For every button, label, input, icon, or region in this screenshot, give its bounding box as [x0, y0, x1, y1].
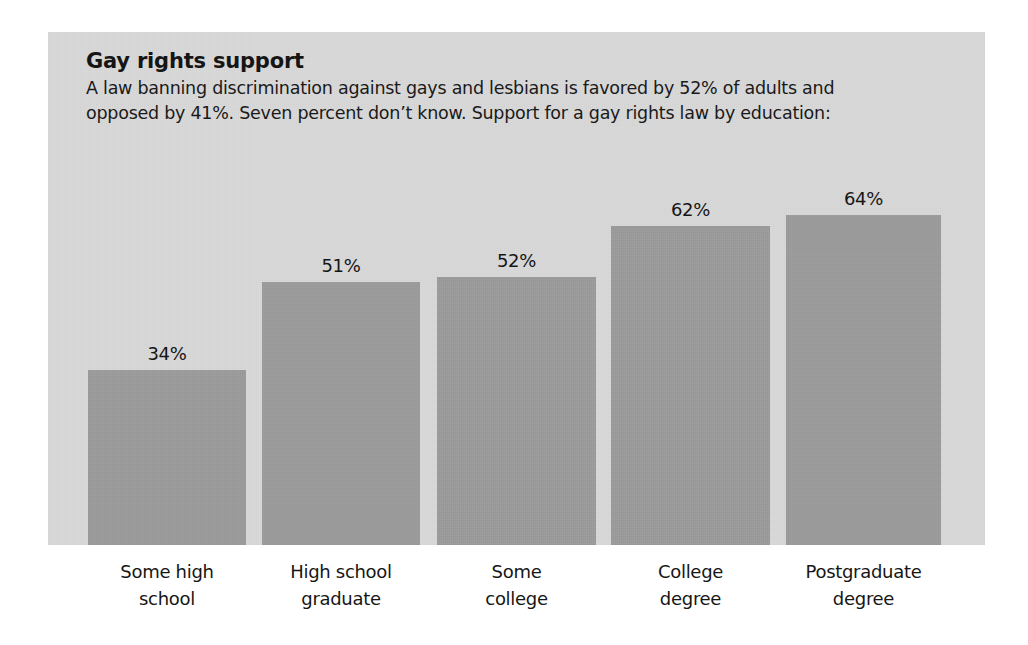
- bar-group-high-school-graduate: 51%: [262, 32, 420, 545]
- bar-value-label: 62%: [611, 200, 770, 220]
- bar-group-postgraduate-degree: 64%: [786, 32, 941, 545]
- category-axis: Some high school High school graduate So…: [48, 558, 985, 628]
- category-label-some-college: Some college: [437, 558, 596, 612]
- chart-figure: Gay rights support A law banning discrim…: [0, 0, 1028, 645]
- bar-value-label: 52%: [437, 251, 596, 271]
- plot-area: 34% 51% 52% 62% 64%: [48, 32, 985, 545]
- bar-group-some-college: 52%: [437, 32, 596, 545]
- category-label-some-high-school: Some high school: [88, 558, 246, 612]
- category-label-postgraduate-degree: Postgraduate degree: [786, 558, 941, 612]
- bar-group-college-degree: 62%: [611, 32, 770, 545]
- bar-group-some-high-school: 34%: [88, 32, 246, 545]
- bar-value-label: 51%: [262, 256, 420, 276]
- bar-some-college: [437, 277, 596, 545]
- bar-college-degree: [611, 226, 770, 545]
- bar-high-school-graduate: [262, 282, 420, 545]
- chart-panel: Gay rights support A law banning discrim…: [48, 32, 985, 545]
- bar-value-label: 64%: [786, 189, 941, 209]
- bar-value-label: 34%: [88, 344, 246, 364]
- bar-some-high-school: [88, 370, 246, 545]
- category-label-high-school-graduate: High school graduate: [262, 558, 420, 612]
- bar-postgraduate-degree: [786, 215, 941, 545]
- category-label-college-degree: College degree: [611, 558, 770, 612]
